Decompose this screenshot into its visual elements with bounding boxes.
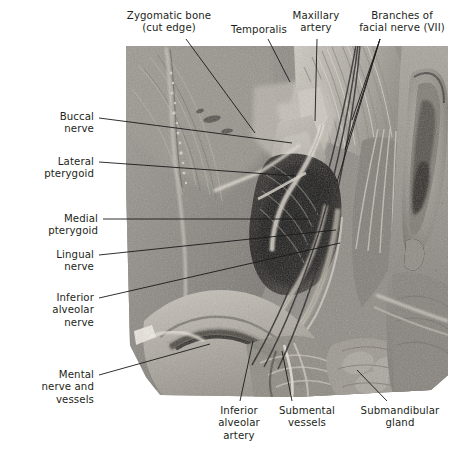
label-buccal-nerve: Buccal nerve bbox=[22, 111, 94, 136]
label-branches-facial-nerve: Branches of facial nerve (VII) bbox=[352, 10, 452, 35]
label-zygomatic-bone: Zygomatic bone (cut edge) bbox=[115, 10, 223, 35]
dissection-photograph bbox=[126, 45, 448, 397]
label-submandibular-gland: Submandibular gland bbox=[350, 405, 450, 430]
label-lateral-pterygoid: Lateral pterygoid bbox=[16, 156, 94, 181]
label-submental-vessels: Submental vessels bbox=[270, 405, 344, 430]
label-temporalis: Temporalis bbox=[226, 24, 292, 36]
label-lingual-nerve: Lingual nerve bbox=[22, 249, 94, 274]
label-inferior-alveolar-nerve: Inferior alveolar nerve bbox=[22, 292, 94, 329]
label-mental-nerve-and-vessels: Mental nerve and vessels bbox=[14, 369, 94, 406]
label-maxillary-artery: Maxillary artery bbox=[287, 10, 345, 35]
label-inferior-alveolar-artery: Inferior alveolar artery bbox=[208, 405, 270, 442]
figure-canvas: Zygomatic bone (cut edge) Temporalis Max… bbox=[0, 0, 466, 455]
dissection-photograph-image bbox=[126, 45, 448, 397]
label-medial-pterygoid: Medial pterygoid bbox=[16, 213, 98, 238]
